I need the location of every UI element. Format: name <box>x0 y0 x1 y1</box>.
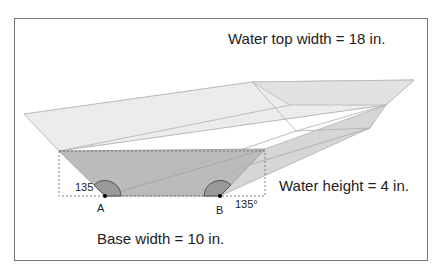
water-height-label: Water height = 4 in. <box>279 177 409 194</box>
water-top-width-label: Water top width = 18 in. <box>228 30 385 47</box>
point-a <box>103 194 107 198</box>
angle-a-label: 135 <box>75 181 93 193</box>
point-a-label: A <box>97 202 104 214</box>
angle-b-label: 135° <box>235 198 258 210</box>
point-b <box>218 194 222 198</box>
base-width-label: Base width = 10 in. <box>97 230 224 247</box>
point-b-label: B <box>216 204 223 216</box>
